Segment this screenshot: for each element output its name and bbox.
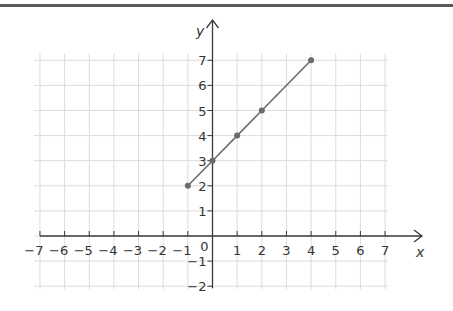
data-point-marker — [185, 183, 191, 189]
y-tick-label: 6 — [198, 78, 206, 93]
x-axis-label: x — [415, 244, 425, 260]
x-tick-label: 6 — [356, 243, 364, 258]
origin-label: 0 — [200, 239, 208, 254]
y-tick-label: 4 — [198, 129, 206, 144]
y-tick-label: −2 — [187, 279, 206, 294]
data-point-marker — [210, 158, 216, 164]
data-point-marker — [234, 133, 240, 139]
x-tick-label: −7 — [24, 243, 43, 258]
x-tick-label: −3 — [123, 243, 142, 258]
y-tick-label: 2 — [198, 179, 206, 194]
y-tick-label: −1 — [187, 254, 206, 269]
tick-labels: −7−6−5−4−3−2−11234567−2−112345670 — [24, 53, 389, 294]
x-tick-label: 4 — [307, 243, 315, 258]
y-tick-label: 5 — [198, 104, 206, 119]
data-point-marker — [259, 108, 265, 114]
data-series — [185, 57, 314, 189]
x-tick-label: 2 — [258, 243, 266, 258]
x-tick-label: 1 — [233, 243, 241, 258]
y-axis-label: y — [195, 23, 205, 39]
x-tick-label: 3 — [282, 243, 290, 258]
x-tick-label: −5 — [74, 243, 93, 258]
y-tick-label: 1 — [198, 204, 206, 219]
y-tick-label: 7 — [198, 53, 206, 68]
coordinate-plane-chart: −7−6−5−4−3−2−11234567−2−112345670 x y — [0, 0, 453, 311]
y-tick-label: 3 — [198, 154, 206, 169]
x-tick-label: −4 — [98, 243, 117, 258]
x-tick-label: −2 — [148, 243, 167, 258]
x-tick-label: 7 — [381, 243, 389, 258]
x-tick-label: 5 — [332, 243, 340, 258]
data-point-marker — [308, 57, 314, 63]
x-tick-label: −6 — [49, 243, 68, 258]
